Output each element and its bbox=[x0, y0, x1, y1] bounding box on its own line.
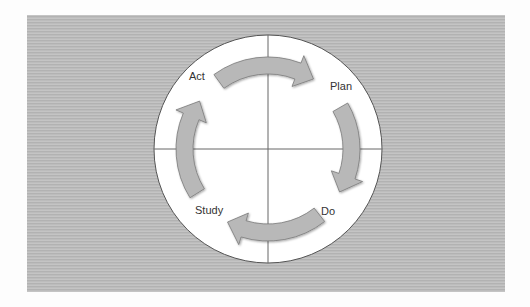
stage-label-do: Do bbox=[321, 205, 335, 217]
pdsa-cycle-diagram: Plan Do Study Act bbox=[0, 0, 530, 307]
stage-label-act: Act bbox=[189, 70, 205, 82]
stage-label-plan: Plan bbox=[330, 80, 352, 92]
stage-label-study: Study bbox=[195, 204, 224, 216]
